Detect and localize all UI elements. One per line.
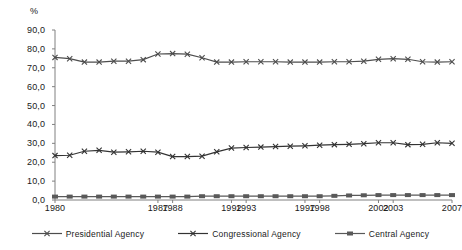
- data-point-marker: [228, 194, 234, 198]
- data-point-marker: [317, 194, 323, 198]
- x-axis-tick-label: 2007: [442, 203, 462, 213]
- series-3: [52, 193, 455, 199]
- axis-lines: [52, 30, 452, 203]
- chart-legend: Presidential AgencyCongressional AgencyC…: [0, 228, 461, 239]
- data-point-marker: [390, 193, 396, 197]
- data-point-marker: [111, 195, 117, 199]
- x-axis-tick-label: 1980: [45, 203, 65, 213]
- data-point-marker: [155, 195, 161, 199]
- data-point-marker: [81, 195, 87, 199]
- data-point-marker: [347, 232, 353, 236]
- legend-item[interactable]: Congressional Agency: [178, 228, 301, 239]
- series-layer: [52, 51, 455, 199]
- data-point-marker: [287, 194, 293, 198]
- legend-label: Congressional Agency: [212, 229, 301, 239]
- data-point-marker: [258, 194, 264, 198]
- data-point-marker: [243, 194, 249, 198]
- data-point-marker: [331, 194, 337, 198]
- x-axis-tick-label: 1998: [309, 203, 329, 213]
- series-1: [52, 51, 454, 65]
- data-point-marker: [434, 193, 440, 197]
- data-point-marker: [273, 194, 279, 198]
- data-point-marker: [67, 195, 73, 199]
- legend-marker-square-icon: [335, 228, 365, 239]
- data-point-marker: [375, 193, 381, 197]
- legend-label: Central Agency: [369, 229, 429, 239]
- data-point-marker: [361, 193, 367, 197]
- data-point-marker: [184, 195, 190, 199]
- data-point-marker: [52, 195, 58, 199]
- data-point-marker: [449, 193, 455, 197]
- x-axis-tick-label: 1993: [236, 203, 256, 213]
- data-point-marker: [420, 193, 426, 197]
- data-point-marker: [96, 195, 102, 199]
- x-axis-tick-label: 1988: [162, 203, 182, 213]
- data-point-marker: [302, 194, 308, 198]
- series-2: [52, 140, 454, 159]
- data-point-marker: [126, 195, 132, 199]
- legend-marker-x-icon: [178, 228, 208, 239]
- data-point-marker: [199, 194, 205, 198]
- data-point-marker: [170, 195, 176, 199]
- data-point-marker: [405, 193, 411, 197]
- series-line: [55, 143, 452, 157]
- data-point-marker: [346, 193, 352, 197]
- x-axis-tick-label: 2003: [383, 203, 403, 213]
- data-point-marker: [140, 195, 146, 199]
- legend-marker-x-icon: [32, 228, 62, 239]
- legend-item[interactable]: Presidential Agency: [32, 228, 144, 239]
- legend-item[interactable]: Central Agency: [335, 228, 429, 239]
- data-point-marker: [214, 194, 220, 198]
- legend-label: Presidential Agency: [66, 229, 144, 239]
